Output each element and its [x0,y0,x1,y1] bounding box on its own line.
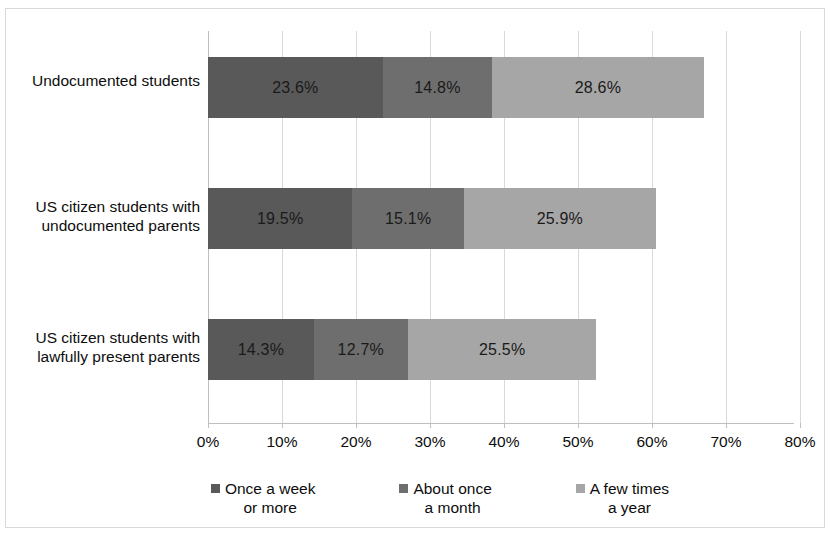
bar-segment-about-once-a-month[interactable]: 15.1% [352,188,464,249]
category-label-us-citizen-undocumented-parents: US citizen students with undocumented pa… [14,197,200,235]
x-axis-tick-label: 30% [400,433,460,451]
bar-segment-a-few-times-a-year[interactable]: 28.6% [492,57,704,118]
x-axis-tick [430,423,431,428]
category-label-undocumented-students: Undocumented students [14,71,200,90]
bar-group-us-citizen-students-with-undocumented-parents: 19.5% 15.1% 25.9% [208,162,793,292]
x-axis-tick-label: 50% [548,433,608,451]
x-axis-tick-label: 40% [474,433,534,451]
x-axis-tick [652,423,653,428]
bar-segment-about-once-a-month[interactable]: 12.7% [314,319,408,380]
x-axis-tick [356,423,357,428]
bar-segment-about-once-a-month[interactable]: 14.8% [383,57,493,118]
x-axis-line [208,423,794,424]
legend-label: About once a month [413,479,491,517]
bar-group-undocumented-students: 23.6% 14.8% 28.6% [208,31,793,161]
legend: Once a week or more About once a month A… [6,479,824,517]
bar-value-label: 15.1% [385,210,431,228]
bar-value-label: 14.8% [414,79,460,97]
x-axis-tick [578,423,579,428]
stacked-bar: 19.5% 15.1% 25.9% [208,188,656,249]
chart-frame: 23.6% 14.8% 28.6% 19.5% 15.1% 25.9% [5,8,825,528]
bar-value-label: 12.7% [338,341,384,359]
x-axis-tick-label: 0% [178,433,238,451]
legend-item-about-once-a-month[interactable]: About once a month [399,479,491,517]
legend-label: Once a week or more [225,479,315,517]
plot-area: 23.6% 14.8% 28.6% 19.5% 15.1% 25.9% [208,31,793,423]
bar-segment-once-a-week-or-more[interactable]: 23.6% [208,57,383,118]
legend-swatch-icon [399,484,408,493]
bar-value-label: 28.6% [575,79,621,97]
legend-item-a-few-times-a-year[interactable]: A few times a year [576,479,669,517]
bar-value-label: 25.9% [537,210,583,228]
x-axis-tick-label: 80% [770,433,830,451]
x-axis-tick-label: 70% [696,433,756,451]
stacked-bar: 23.6% 14.8% 28.6% [208,57,704,118]
x-axis-tick-label: 60% [622,433,682,451]
x-axis-tick-label: 20% [326,433,386,451]
legend-item-once-a-week-or-more[interactable]: Once a week or more [211,479,315,517]
legend-swatch-icon [211,484,220,493]
category-label-us-citizen-lawfully-present-parents: US citizen students with lawfully presen… [14,328,200,366]
bar-value-label: 23.6% [272,79,318,97]
bar-segment-once-a-week-or-more[interactable]: 19.5% [208,188,352,249]
legend-swatch-icon [576,484,585,493]
x-axis-tick [726,423,727,428]
bar-group-us-citizen-students-with-lawfully-present-parents: 14.3% 12.7% 25.5% [208,293,793,423]
bar-value-label: 25.5% [479,341,525,359]
legend-label: A few times a year [590,479,669,517]
bar-segment-a-few-times-a-year[interactable]: 25.5% [408,319,597,380]
stacked-bar: 14.3% 12.7% 25.5% [208,319,596,380]
x-axis-tick-label: 10% [252,433,312,451]
x-axis-tick [800,423,801,428]
bar-segment-a-few-times-a-year[interactable]: 25.9% [464,188,656,249]
x-axis-tick [208,423,209,428]
x-axis-tick [504,423,505,428]
gridline [800,31,801,423]
bar-value-label: 19.5% [257,210,303,228]
bar-segment-once-a-week-or-more[interactable]: 14.3% [208,319,314,380]
bar-value-label: 14.3% [238,341,284,359]
x-axis-tick [282,423,283,428]
